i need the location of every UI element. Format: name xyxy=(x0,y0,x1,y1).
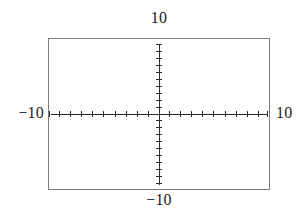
y-min-label: −10 xyxy=(0,192,308,208)
y-max-label: 10 xyxy=(0,10,308,26)
plot-frame xyxy=(48,38,270,190)
x-max-label: 10 xyxy=(276,105,306,121)
graph-viewport: 10 −10 −10 10 xyxy=(0,0,308,220)
y-min-label-text: −10 xyxy=(146,191,172,208)
y-max-label-text: 10 xyxy=(151,9,167,26)
axes-svg xyxy=(49,39,269,189)
plot-surface xyxy=(49,39,269,189)
x-min-label: −10 xyxy=(8,105,44,121)
